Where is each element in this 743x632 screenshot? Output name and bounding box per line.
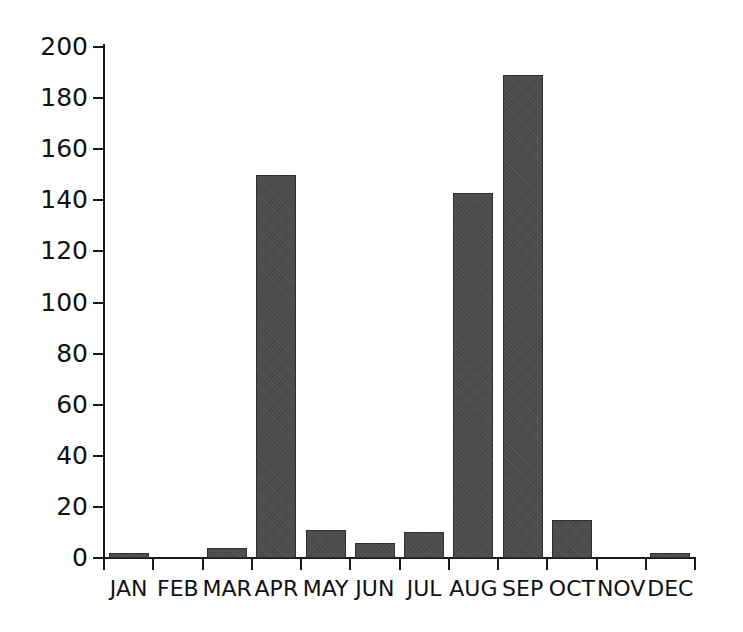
x-axis-tick (497, 558, 499, 570)
x-axis-tick (448, 558, 450, 570)
bar-dec (650, 553, 690, 558)
x-axis-label-oct: OCT (547, 578, 596, 600)
x-axis-label-sep: SEP (498, 578, 547, 600)
x-axis-label-feb: FEB (153, 578, 202, 600)
x-axis-tick (694, 558, 696, 570)
x-axis-label-nov: NOV (597, 578, 646, 600)
y-axis-tick-label: 180 (4, 85, 88, 110)
x-axis-tick (349, 558, 351, 570)
bar-jan (109, 553, 149, 558)
bar-may (306, 530, 346, 558)
y-axis-tick (93, 250, 104, 252)
y-axis-tick (93, 46, 104, 48)
x-axis-tick (645, 558, 647, 570)
y-axis-tick-label: 200 (4, 34, 88, 59)
bar-chart: 200180160140120100806040200 JANFEBMARAPR… (0, 0, 743, 632)
bar-mar (207, 548, 247, 558)
x-axis-label-apr: APR (252, 578, 301, 600)
bar-oct (552, 520, 592, 558)
y-axis-tick (93, 302, 104, 304)
x-axis-tick (202, 558, 204, 570)
x-axis-tick (152, 558, 154, 570)
bar-apr (256, 175, 296, 558)
x-axis-tick (103, 558, 105, 570)
y-axis-tick (93, 506, 104, 508)
y-axis-tick-label: 0 (4, 545, 88, 570)
x-axis-label-may: MAY (301, 578, 350, 600)
x-axis-tick (546, 558, 548, 570)
y-axis-tick (93, 353, 104, 355)
x-axis-label-jan: JAN (104, 578, 153, 600)
y-axis-tick (93, 97, 104, 99)
x-axis-label-mar: MAR (203, 578, 252, 600)
y-axis-tick-label: 100 (4, 290, 88, 315)
x-axis-label-jul: JUL (400, 578, 449, 600)
y-axis-tick-label: 140 (4, 187, 88, 212)
bar-sep (503, 75, 543, 558)
x-axis-tick (596, 558, 598, 570)
bar-jun (355, 543, 395, 558)
x-axis-label-dec: DEC (646, 578, 695, 600)
y-axis-tick (93, 199, 104, 201)
x-axis-tick (300, 558, 302, 570)
x-axis-tick (399, 558, 401, 570)
y-axis-tick (93, 455, 104, 457)
x-axis-label-aug: AUG (449, 578, 498, 600)
x-axis-label-jun: JUN (350, 578, 399, 600)
y-axis-tick-label: 60 (4, 392, 88, 417)
bar-aug (453, 193, 493, 558)
y-axis-tick-label: 40 (4, 443, 88, 468)
y-axis-tick-label: 80 (4, 341, 88, 366)
y-axis-tick-label: 160 (4, 136, 88, 161)
y-axis-tick-label: 120 (4, 238, 88, 263)
bar-jul (404, 532, 444, 558)
y-axis-tick (93, 404, 104, 406)
y-axis-tick-label: 20 (4, 494, 88, 519)
y-axis-tick (93, 148, 104, 150)
x-axis-tick (251, 558, 253, 570)
